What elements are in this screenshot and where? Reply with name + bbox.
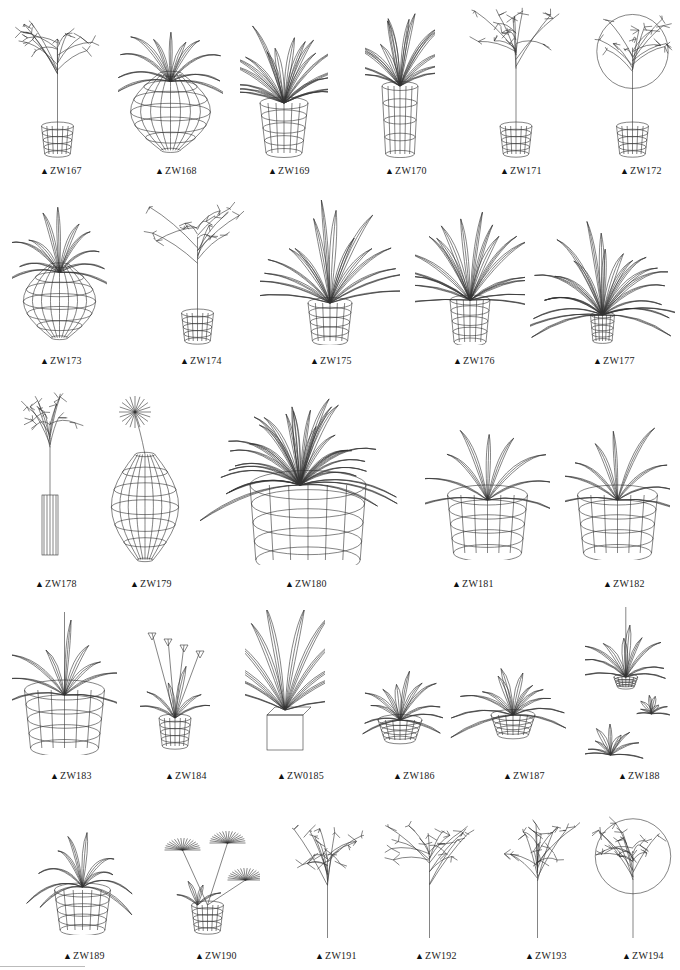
plant-code: ZW187 xyxy=(513,770,545,781)
plant-code: ZW168 xyxy=(165,165,197,176)
plant-code: ZW188 xyxy=(628,770,660,781)
triangle-marker-icon: ▲ xyxy=(525,951,534,961)
plant-code-label: ▲ZW175 xyxy=(310,355,352,366)
triangle-marker-icon: ▲ xyxy=(40,356,49,366)
plant-code: ZW182 xyxy=(613,578,645,589)
plant-illustration-zw173 xyxy=(12,200,107,345)
triangle-marker-icon: ▲ xyxy=(500,166,509,176)
plant-code: ZW194 xyxy=(632,950,664,961)
plant-code: ZW172 xyxy=(630,165,662,176)
plant-code-label: ▲ZW193 xyxy=(525,950,567,961)
triangle-marker-icon: ▲ xyxy=(63,951,72,961)
plant-wireframe-icon xyxy=(15,10,100,158)
plant-code-label: ▲ZW172 xyxy=(620,165,662,176)
plant-wireframe-icon xyxy=(382,815,477,940)
plant-code-label: ▲ZW174 xyxy=(180,355,222,366)
triangle-marker-icon: ▲ xyxy=(285,579,294,589)
triangle-marker-icon: ▲ xyxy=(622,951,631,961)
plant-code: ZW184 xyxy=(175,770,207,781)
triangle-marker-icon: ▲ xyxy=(393,771,402,781)
triangle-marker-icon: ▲ xyxy=(277,771,286,781)
plant-code-label: ▲ZW169 xyxy=(268,165,310,176)
plant-wireframe-icon xyxy=(495,815,580,940)
triangle-marker-icon: ▲ xyxy=(620,166,629,176)
plant-wireframe-icon xyxy=(590,10,675,158)
plant-code: ZW175 xyxy=(320,355,352,366)
triangle-marker-icon: ▲ xyxy=(415,951,424,961)
plant-code-label: ▲ZW177 xyxy=(593,355,635,366)
plant-code-label: ▲ZW189 xyxy=(63,950,105,961)
triangle-marker-icon: ▲ xyxy=(453,356,462,366)
plant-code: ZW183 xyxy=(60,770,92,781)
triangle-marker-icon: ▲ xyxy=(50,771,59,781)
plant-illustration-zw178 xyxy=(15,385,85,560)
plant-illustration-zw174 xyxy=(140,200,255,345)
plant-code-label: ▲ZW168 xyxy=(155,165,197,176)
plant-code: ZW191 xyxy=(325,950,357,961)
plant-illustration-zw167 xyxy=(15,10,100,158)
plant-illustration-zw183 xyxy=(12,610,117,755)
plant-wireframe-icon xyxy=(425,405,550,560)
plant-code: ZW192 xyxy=(425,950,457,961)
plant-code: ZW179 xyxy=(140,578,172,589)
plant-wireframe-icon xyxy=(105,395,185,565)
plant-illustration-zw191 xyxy=(290,820,365,940)
plant-illustration-zw184 xyxy=(140,625,210,750)
plant-code-label: ▲ZW186 xyxy=(393,770,435,781)
plant-wireframe-icon xyxy=(200,380,400,565)
plant-code: ZW190 xyxy=(205,950,237,961)
plant-code-label: ▲ZW194 xyxy=(622,950,664,961)
plant-code: ZW181 xyxy=(462,578,494,589)
triangle-marker-icon: ▲ xyxy=(180,356,189,366)
plant-illustration-zw186 xyxy=(340,650,460,745)
plant-code-label: ▲ZW173 xyxy=(40,355,82,366)
triangle-marker-icon: ▲ xyxy=(315,951,324,961)
plant-wireframe-icon xyxy=(12,610,117,755)
triangle-marker-icon: ▲ xyxy=(618,771,627,781)
plant-code: ZW174 xyxy=(190,355,222,366)
plant-illustration-zw177 xyxy=(530,200,675,345)
plant-code-label: ▲ZW192 xyxy=(415,950,457,961)
plant-illustration-zw193 xyxy=(495,815,580,940)
plant-code: ZW180 xyxy=(295,578,327,589)
plant-wireframe-icon xyxy=(140,200,255,345)
plant-illustration-zw176 xyxy=(415,195,525,345)
plant-illustration-zw187 xyxy=(448,655,578,740)
plant-code-label: ▲ZW183 xyxy=(50,770,92,781)
triangle-marker-icon: ▲ xyxy=(155,166,164,176)
triangle-marker-icon: ▲ xyxy=(385,166,394,176)
plant-code-label: ▲ZW180 xyxy=(285,578,327,589)
plant-illustration-zw171 xyxy=(460,5,572,158)
plant-wireframe-icon xyxy=(460,5,572,158)
plant-code: ZW186 xyxy=(403,770,435,781)
plant-code-label: ▲ZW179 xyxy=(130,578,172,589)
bottom-rule xyxy=(0,966,85,967)
plant-code: ZW170 xyxy=(395,165,427,176)
plant-code-label: ▲ZW182 xyxy=(603,578,645,589)
plant-wireframe-icon xyxy=(290,820,365,940)
plant-code: ZW171 xyxy=(510,165,542,176)
triangle-marker-icon: ▲ xyxy=(35,579,44,589)
plant-wireframe-icon xyxy=(260,200,400,345)
plant-code: ZW173 xyxy=(50,355,82,366)
plant-wireframe-icon xyxy=(15,815,150,935)
plant-code: ZW193 xyxy=(535,950,567,961)
plant-wireframe-icon xyxy=(118,5,223,158)
plant-wireframe-icon xyxy=(448,655,578,740)
plant-code-label: ▲ZW170 xyxy=(385,165,427,176)
plant-wireframe-icon xyxy=(140,625,210,750)
plant-code: ZW176 xyxy=(463,355,495,366)
plant-wireframe-icon xyxy=(155,825,260,935)
plant-code-label: ▲ZW187 xyxy=(503,770,545,781)
plant-illustration-zw179 xyxy=(105,395,185,565)
plant-wireframe-icon xyxy=(240,8,328,158)
plant-code: ZW189 xyxy=(73,950,105,961)
plant-illustration-zw172 xyxy=(590,10,675,158)
plant-illustration-zw0185 xyxy=(245,610,325,755)
triangle-marker-icon: ▲ xyxy=(452,579,461,589)
plant-illustration-zw182 xyxy=(565,405,670,560)
plant-code-label: ▲ZW188 xyxy=(618,770,660,781)
triangle-marker-icon: ▲ xyxy=(603,579,612,589)
plant-code-label: ▲ZW176 xyxy=(453,355,495,366)
plant-code: ZW178 xyxy=(45,578,77,589)
